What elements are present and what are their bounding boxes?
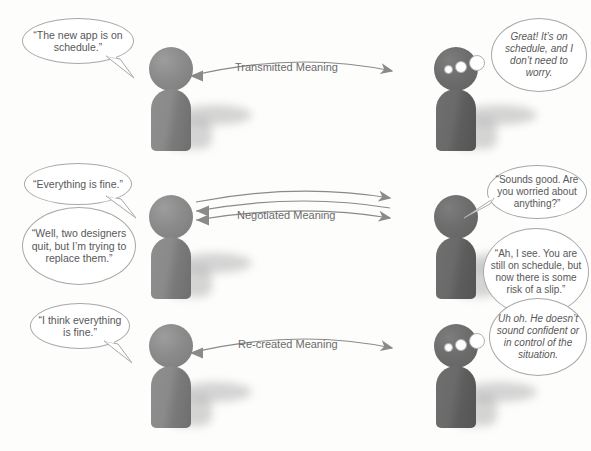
- thought-dot-large: [469, 333, 485, 349]
- arrow-label-negotiated: Negotiated Meaning: [237, 209, 335, 221]
- receiver-thought-bubble: Uh oh. He doesn’t sound confident or in …: [489, 298, 587, 376]
- sender-figure: [138, 195, 204, 299]
- figure-body: [436, 237, 476, 299]
- thought-dot-large: [469, 55, 485, 71]
- bubble-text: “I think everything is fine.”: [31, 314, 129, 339]
- receiver-figure: [423, 195, 489, 299]
- figure-body: [151, 237, 191, 299]
- receiver-thought-bubble: Great! It’s on schedule, and I don’t nee…: [491, 18, 587, 92]
- arrow-label-transmitted: Transmitted Meaning: [235, 61, 338, 73]
- figure-body: [151, 366, 191, 428]
- figure-head: [149, 195, 193, 239]
- arrow-label-recreated: Re-created Meaning: [238, 338, 338, 350]
- sender-speech-bubble: “I think everything is fine.”: [30, 303, 130, 349]
- bubble-text: Uh oh. He doesn’t sound confident or in …: [490, 313, 586, 360]
- figure-head: [149, 324, 193, 368]
- bubble-text: “Well, two designers quit, but I’m tryin…: [23, 227, 135, 264]
- bubble-text: “The new app is on schedule.”: [23, 29, 133, 54]
- figure-body: [151, 89, 191, 151]
- sender-figure: [138, 47, 204, 151]
- receiver-speech-bubble-1: “Sounds good. Are you worried about anyt…: [487, 165, 587, 219]
- figure-body: [436, 366, 476, 428]
- bubble-text: “Sounds good. Are you worried about anyt…: [488, 174, 586, 209]
- bubble-text: “Ah, I see. You are still on schedule, b…: [484, 248, 588, 295]
- bubble-text: Great! It’s on schedule, and I don’t nee…: [492, 31, 586, 78]
- figure-head: [434, 195, 478, 239]
- bubble-text: “Everything is fine.”: [27, 178, 129, 190]
- sender-speech-bubble-1: “Everything is fine.”: [24, 163, 132, 205]
- sender-speech-bubble: “The new app is on schedule.”: [22, 18, 134, 64]
- figure-head: [149, 47, 193, 91]
- sender-speech-bubble-2: “Well, two designers quit, but I’m tryin…: [22, 207, 136, 285]
- diagram-canvas: “The new app is on schedule.” Transmitte…: [0, 0, 591, 451]
- thought-dot-medium: [455, 61, 467, 73]
- figure-body: [436, 89, 476, 151]
- thought-dot-small: [444, 343, 453, 352]
- thought-dot-medium: [455, 339, 467, 351]
- thought-dot-small: [444, 65, 453, 74]
- sender-figure: [138, 324, 204, 428]
